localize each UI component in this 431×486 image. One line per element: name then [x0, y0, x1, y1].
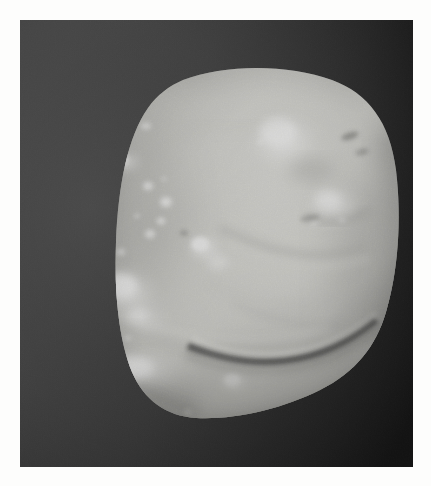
plate-film-grain [20, 20, 413, 467]
photo-frame [20, 20, 413, 467]
photographic-plate: Grayscale spacecraft photograph of an ir… [0, 0, 431, 486]
moon-photograph-canvas [20, 20, 413, 467]
